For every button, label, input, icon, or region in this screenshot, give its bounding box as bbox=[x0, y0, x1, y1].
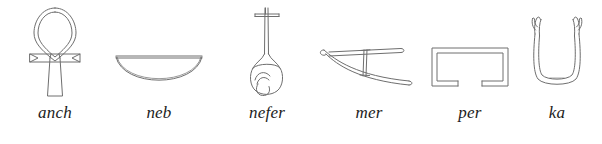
house-plan-glyph-icon bbox=[428, 2, 512, 102]
basket-glyph-art bbox=[111, 0, 207, 104]
hoe-glyph-art bbox=[317, 0, 421, 104]
hieroglyph-figure: anch neb bbox=[0, 0, 602, 144]
glyph-label-per: per bbox=[458, 104, 481, 121]
heart-and-windpipe-glyph-art bbox=[238, 0, 296, 104]
glyph-cell-per: per bbox=[420, 0, 520, 144]
glyph-cell-ka: ka bbox=[512, 0, 602, 144]
heart-and-windpipe-glyph-icon bbox=[238, 2, 296, 102]
hoe-glyph-icon bbox=[317, 2, 421, 102]
upraised-arms-glyph-art bbox=[522, 0, 592, 104]
glyph-label-nefer: nefer bbox=[249, 104, 285, 121]
ankh-glyph-art bbox=[20, 0, 90, 104]
glyph-label-anch: anch bbox=[38, 104, 72, 121]
house-plan-glyph-art bbox=[428, 0, 512, 104]
glyph-label-neb: neb bbox=[146, 104, 171, 121]
glyph-cell-anch: anch bbox=[0, 0, 110, 144]
basket-glyph-icon bbox=[111, 2, 207, 102]
glyph-cell-nefer: nefer bbox=[212, 0, 322, 144]
upraised-arms-glyph-icon bbox=[522, 2, 592, 102]
glyph-label-mer: mer bbox=[355, 104, 382, 121]
ankh-glyph-icon bbox=[20, 2, 90, 102]
glyph-cell-mer: mer bbox=[310, 0, 428, 144]
glyph-label-ka: ka bbox=[549, 104, 565, 121]
glyph-cell-neb: neb bbox=[100, 0, 218, 144]
